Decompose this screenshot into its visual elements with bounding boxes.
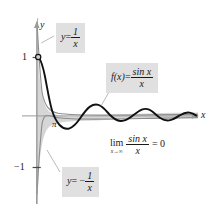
point-zero-one-marker: [36, 54, 41, 59]
callout-lower-equals: = −: [71, 175, 85, 186]
leader-line-lower-envelope: [47, 150, 60, 172]
y-tick-label-one: 1: [22, 52, 27, 62]
callout-upper-envelope: y=1x: [56, 23, 85, 53]
x-axis-label: x: [201, 110, 205, 120]
callout-function-fraction: sin xx: [131, 66, 154, 90]
callout-function: f(x)=sin xx: [106, 63, 158, 93]
y-axis-arrowhead: [34, 21, 40, 28]
callout-function-denominator: x: [131, 78, 154, 90]
callout-lower-numerator: 1: [85, 170, 94, 183]
limit-numerator: sin x: [126, 133, 149, 146]
limit-subscript: x→∞: [110, 148, 123, 154]
callout-upper-denominator: x: [71, 38, 80, 50]
callout-function-numerator: sin x: [131, 66, 154, 79]
limit-fraction: sin xx: [126, 133, 149, 157]
callout-function-lhs: f(x): [111, 71, 125, 82]
y-axis-label: y: [40, 20, 44, 30]
plot-canvas: [0, 0, 211, 204]
callout-upper-numerator: 1: [71, 26, 80, 39]
limit-statement: limx→∞sin xx= 0: [110, 133, 165, 157]
x-mark-pi: π: [52, 120, 57, 129]
limit-result: = 0: [152, 138, 165, 149]
limit-operator: limx→∞: [110, 138, 123, 154]
callout-lower-fraction: 1x: [85, 170, 94, 194]
callout-lower-denominator: x: [85, 182, 94, 194]
leader-line-upper-envelope: [41, 36, 54, 43]
callout-upper-fraction: 1x: [71, 26, 80, 50]
limit-denominator: x: [126, 145, 149, 157]
limit-lim-text: lim: [110, 138, 123, 148]
y-tick-label-negative-one: −1: [14, 162, 25, 172]
squeeze-theorem-figure: y x 1 −1 π y=1x f(x)=sin xx y= −1x limx→…: [0, 0, 211, 204]
callout-lower-envelope: y= −1x: [62, 167, 99, 197]
